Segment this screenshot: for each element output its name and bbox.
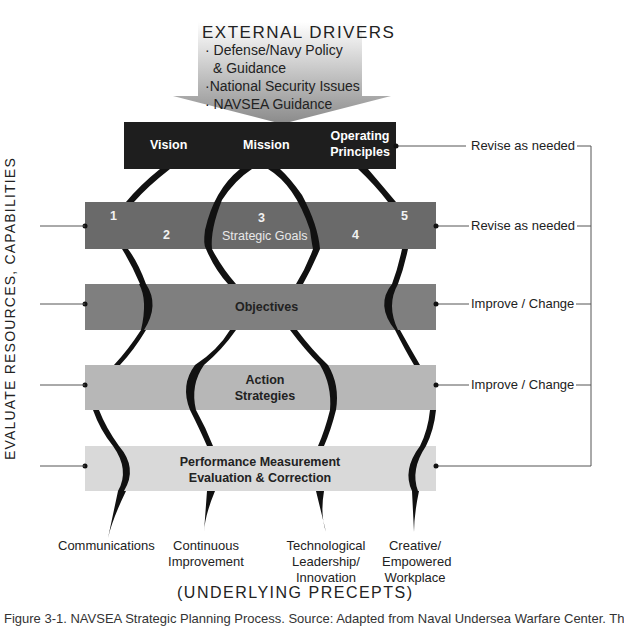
precept-creative-workplace: Creative/ Empowered Workplace [382, 538, 448, 586]
strand [93, 410, 119, 446]
operating-line-2: Principles [328, 144, 392, 160]
strand [395, 330, 420, 365]
strand [316, 491, 326, 532]
strand [126, 169, 170, 202]
goal-number-1: 1 [110, 208, 117, 224]
goal-number-5: 5 [401, 208, 408, 224]
precept-line: Continuous [166, 538, 246, 554]
performance-line-1: Performance Measurement [170, 454, 350, 470]
driver-item: & Guidance [213, 60, 286, 76]
improve-change-2: Improve / Change [469, 377, 576, 392]
revise-as-needed-2: Revise as needed [469, 218, 577, 233]
strand [108, 491, 126, 538]
strand [114, 330, 146, 365]
precept-line: Creative/ [382, 538, 448, 554]
strand [318, 410, 336, 446]
strand [420, 410, 436, 446]
precept-line: Leadership/ [285, 554, 367, 570]
strand [122, 249, 146, 284]
action-line-1: Action [230, 372, 300, 388]
strand [204, 491, 215, 532]
driver-item: ·National Security Issues [205, 78, 360, 94]
strand [296, 249, 320, 284]
mission-label: Mission [243, 137, 290, 153]
strand [190, 410, 213, 446]
strand [392, 249, 408, 284]
goal-number-3: 3 [258, 210, 265, 226]
underlying-precepts-label: (UNDERLYING PRECEPTS) [177, 584, 414, 602]
operating-line-1: Operating [328, 128, 392, 144]
external-drivers-title: EXTERNAL DRIVERS [202, 23, 395, 43]
evaluate-resources-label: EVALUATE RESOURCES, CAPABILITIES [2, 157, 18, 460]
strand [195, 330, 236, 365]
action-line-2: Strategies [230, 388, 300, 404]
precept-line: Technological [285, 538, 367, 554]
improve-change-1: Improve / Change [469, 296, 576, 311]
goal-number-4: 4 [352, 227, 359, 243]
strategic-goals-label: Strategic Goals [222, 228, 307, 244]
vision-label: Vision [150, 137, 187, 153]
precept-continuous-improvement: Continuous Improvement [166, 538, 246, 570]
strand [206, 249, 236, 284]
performance-line-2: Evaluation & Correction [170, 470, 350, 486]
driver-item: · NAVSEA Guidance [205, 96, 332, 112]
driver-item: · Defense/Navy Policy [205, 42, 343, 58]
objectives-label: Objectives [235, 299, 298, 315]
strand [290, 330, 328, 365]
precept-communications: Communications [58, 538, 155, 554]
revise-as-needed-1: Revise as needed [469, 138, 577, 153]
precept-line: Improvement [166, 554, 246, 570]
precept-line: Empowered [382, 554, 448, 570]
operating-principles-label: Operating Principles [328, 128, 392, 160]
precept-technological-leadership: Technological Leadership/ Innovation [285, 538, 367, 586]
action-strategies-label: Action Strategies [230, 372, 300, 404]
figure-caption: Figure 3-1. NAVSEA Strategic Planning Pr… [4, 611, 624, 626]
performance-label: Performance Measurement Evaluation & Cor… [170, 454, 350, 486]
strand [358, 169, 396, 202]
left-lines [40, 226, 85, 466]
goal-number-2: 2 [163, 227, 170, 243]
strand [412, 491, 419, 532]
